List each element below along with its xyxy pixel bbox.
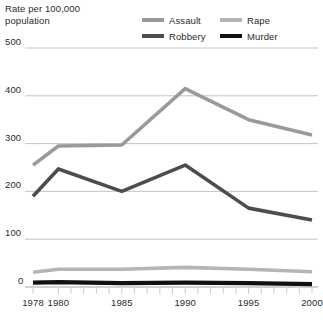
series-line-assault (33, 89, 312, 165)
series-line-rape (33, 267, 312, 272)
series-line-robbery (33, 165, 312, 220)
y-tick-label-300: 300 (5, 132, 21, 143)
y-tick-label-100: 100 (5, 227, 21, 238)
y-tick-label-200: 200 (5, 179, 21, 190)
series-line-murder (33, 282, 312, 284)
x-tick-label-1995: 1995 (238, 297, 260, 308)
y-tick-label-500: 500 (5, 36, 21, 47)
x-tick-label-1980: 1980 (48, 297, 70, 308)
x-tick-label-2000: 2000 (301, 297, 323, 308)
x-tick-label-1978: 1978 (22, 297, 44, 308)
y-tick-label-0: 0 (18, 275, 23, 286)
y-tick-label-400: 400 (5, 84, 21, 95)
x-tick-label-1990: 1990 (174, 297, 196, 308)
x-tick-label-1985: 1985 (111, 297, 133, 308)
